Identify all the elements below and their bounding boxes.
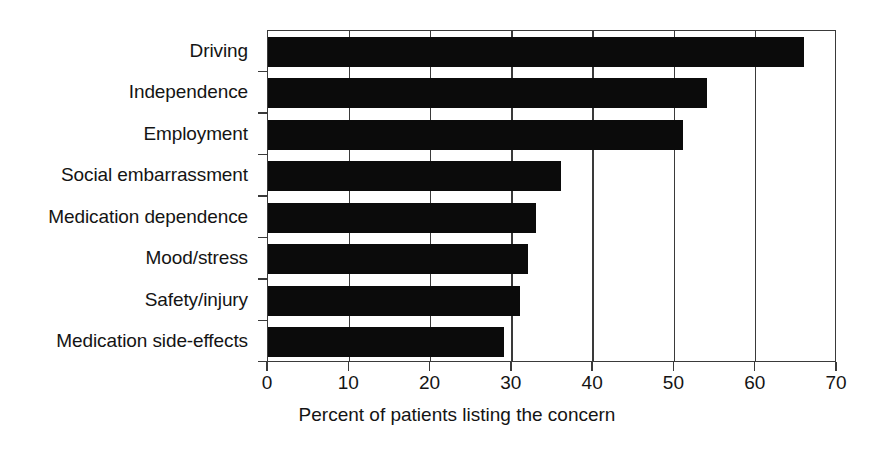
- gridline: [755, 31, 757, 361]
- category-tick: [258, 278, 267, 280]
- category-axis: DrivingIndependenceEmploymentSocial emba…: [0, 30, 258, 362]
- x-tick-label: 0: [232, 372, 302, 394]
- x-tick: [429, 362, 431, 371]
- category-label: Independence: [0, 82, 248, 101]
- category-tick: [258, 154, 267, 156]
- bar-chart-figure: DrivingIndependenceEmploymentSocial emba…: [0, 0, 874, 451]
- bar: [268, 327, 504, 357]
- category-label: Social embarrassment: [0, 165, 248, 184]
- x-tick-label: 70: [801, 372, 871, 394]
- category-tick: [258, 195, 267, 197]
- x-axis-title: Percent of patients listing the concern: [0, 404, 874, 426]
- x-tick-label: 50: [638, 372, 708, 394]
- x-axis-tick-labels: 010203040506070: [267, 372, 836, 398]
- x-tick-label: 30: [476, 372, 546, 394]
- bar: [268, 161, 561, 191]
- category-label: Employment: [0, 124, 248, 143]
- x-tick: [754, 362, 756, 371]
- x-tick: [673, 362, 675, 371]
- x-tick-label: 60: [720, 372, 790, 394]
- bar: [268, 37, 804, 67]
- x-tick: [510, 362, 512, 371]
- category-tick: [258, 320, 267, 322]
- category-label: Driving: [0, 41, 248, 60]
- bar: [268, 203, 536, 233]
- category-tick: [258, 237, 267, 239]
- x-tick-label: 10: [313, 372, 383, 394]
- category-tick: [258, 112, 267, 114]
- x-tick: [835, 362, 837, 371]
- x-tick: [348, 362, 350, 371]
- category-label: Medication dependence: [0, 207, 248, 226]
- bar: [268, 244, 528, 274]
- bar: [268, 120, 683, 150]
- plot-area: [267, 30, 836, 362]
- x-tick: [266, 362, 268, 371]
- bar: [268, 286, 520, 316]
- x-tick: [591, 362, 593, 371]
- x-tick-label: 20: [395, 372, 465, 394]
- x-tick-label: 40: [557, 372, 627, 394]
- category-tick: [258, 71, 267, 73]
- x-axis-tick-marks: [267, 362, 836, 372]
- category-label: Medication side-effects: [0, 331, 248, 350]
- category-label: Safety/injury: [0, 290, 248, 309]
- category-label: Mood/stress: [0, 248, 248, 267]
- bar: [268, 78, 707, 108]
